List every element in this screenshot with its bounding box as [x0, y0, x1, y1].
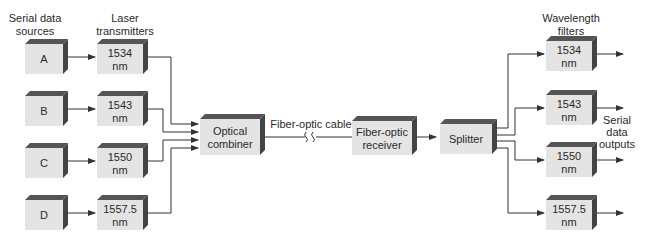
- wdm-diagram: ABCD1534nm1543nm1550nm1557.5nmOpticalcom…: [0, 0, 653, 243]
- source-d-label: D: [40, 209, 48, 221]
- source-b: B: [25, 91, 68, 126]
- laser-transmitter-1534-label: 1534: [108, 47, 132, 59]
- optical-combiner: Opticalcombiner: [200, 114, 265, 155]
- arrow-splitter-to-filter: [496, 54, 544, 128]
- heading-laser-transmitters: transmitters: [96, 25, 154, 37]
- wavelength-filter-1557.5-top: [546, 195, 597, 200]
- laser-transmitter-1550-label: nm: [112, 164, 127, 176]
- laser-transmitter-1534-top: [97, 39, 148, 44]
- source-c-label: C: [40, 157, 48, 169]
- source-b-top: [25, 91, 68, 96]
- laser-transmitter-1550-label: 1550: [108, 151, 132, 163]
- laser-transmitter-1534: 1534nm: [97, 39, 148, 74]
- laser-transmitter-1534-label: nm: [112, 60, 127, 72]
- source-b-label: B: [40, 105, 47, 117]
- splitter-side: [492, 119, 497, 154]
- wavelength-filter-1550-label: nm: [561, 163, 576, 175]
- heading-serial-data-sources: Serial data: [9, 12, 62, 24]
- heading-serial-data-sources: sources: [16, 25, 55, 37]
- fiber-optic-receiver-top: [352, 116, 417, 121]
- wavelength-filter-1534-label: nm: [561, 57, 576, 69]
- wavelength-filter-1534: 1534nm: [546, 36, 597, 71]
- wavelength-filter-1534-label: 1534: [557, 44, 581, 56]
- laser-transmitter-1550-top: [97, 143, 148, 148]
- source-d: D: [25, 195, 68, 230]
- optical-combiner-label: Optical: [213, 125, 247, 137]
- laser-transmitter-1557.5-side: [143, 195, 148, 230]
- heading-serial-data-outputs: outputs: [599, 138, 636, 150]
- wavelength-filter-1550-side: [592, 142, 597, 177]
- splitter-top: [440, 119, 497, 124]
- laser-transmitter-1557.5: 1557.5nm: [97, 195, 148, 230]
- laser-transmitter-1557.5-label: nm: [112, 216, 127, 228]
- source-c: C: [25, 143, 68, 178]
- laser-transmitter-1543-label: 1543: [108, 99, 132, 111]
- laser-transmitter-1550: 1550nm: [97, 143, 148, 178]
- laser-transmitter-1550-side: [143, 143, 148, 178]
- source-d-side: [63, 195, 68, 230]
- wavelength-filter-1557.5-side: [592, 195, 597, 230]
- source-a: A: [25, 39, 68, 74]
- optical-combiner-label: combiner: [207, 138, 253, 150]
- wavelength-filter-1543-label: nm: [561, 111, 576, 123]
- source-a-label: A: [40, 53, 48, 65]
- fiber-optic-receiver-side: [412, 116, 417, 155]
- wavelength-filter-1550-top: [546, 142, 597, 147]
- laser-transmitter-1534-side: [143, 39, 148, 74]
- laser-transmitter-1543-side: [143, 91, 148, 126]
- source-c-top: [25, 143, 68, 148]
- heading-wavelength-filters: filters: [558, 25, 585, 37]
- fiber-optic-cable-label: Fiber-optic cable: [270, 118, 351, 130]
- wavelength-filter-1543-label: 1543: [557, 98, 581, 110]
- wavelength-filter-1550-label: 1550: [557, 150, 581, 162]
- heading-wavelength-filters: Wavelength: [542, 12, 600, 24]
- splitter-label: Splitter: [449, 133, 484, 145]
- arrow-splitter-to-filter: [496, 148, 544, 213]
- fiber-optic-receiver: Fiber-opticreceiver: [352, 116, 417, 155]
- wavelength-filter-1543: 1543nm: [546, 90, 597, 125]
- source-d-top: [25, 195, 68, 200]
- wavelength-filter-1543-side: [592, 90, 597, 125]
- laser-transmitter-1543-top: [97, 91, 148, 96]
- arrow-splitter-to-filter: [496, 108, 544, 135]
- arrow-transmitter-to-combiner: [148, 140, 198, 161]
- arrow-splitter-to-filter: [496, 141, 544, 160]
- source-b-side: [63, 91, 68, 126]
- laser-transmitter-1543-label: nm: [112, 112, 127, 124]
- fiber-optic-receiver-label: Fiber-optic: [356, 126, 408, 138]
- wavelength-filter-1534-side: [592, 36, 597, 71]
- optical-combiner-top: [200, 114, 265, 119]
- source-a-top: [25, 39, 68, 44]
- laser-transmitter-1557.5-label: 1557.5: [103, 203, 137, 215]
- laser-transmitter-1543: 1543nm: [97, 91, 148, 126]
- arrow-transmitter-to-combiner: [148, 109, 198, 132]
- wavelength-filter-1534-top: [546, 36, 597, 41]
- cable-break-icon: [305, 132, 315, 142]
- wavelength-filter-1543-top: [546, 90, 597, 95]
- arrow-transmitter-to-combiner: [148, 148, 198, 213]
- laser-transmitter-1557.5-top: [97, 195, 148, 200]
- heading-serial-data-outputs: data: [606, 126, 628, 138]
- source-a-side: [63, 39, 68, 74]
- fiber-optic-receiver-label: receiver: [362, 139, 401, 151]
- wavelength-filter-1550: 1550nm: [546, 142, 597, 177]
- wavelength-filter-1557.5: 1557.5nm: [546, 195, 597, 230]
- source-c-side: [63, 143, 68, 178]
- optical-combiner-side: [260, 114, 265, 155]
- wavelength-filter-1557.5-label: 1557.5: [552, 203, 586, 215]
- heading-laser-transmitters: Laser: [111, 12, 139, 24]
- splitter: Splitter: [440, 119, 497, 154]
- arrow-transmitter-to-combiner: [148, 57, 198, 124]
- wavelength-filter-1557.5-label: nm: [561, 216, 576, 228]
- heading-serial-data-outputs: Serial: [603, 114, 631, 126]
